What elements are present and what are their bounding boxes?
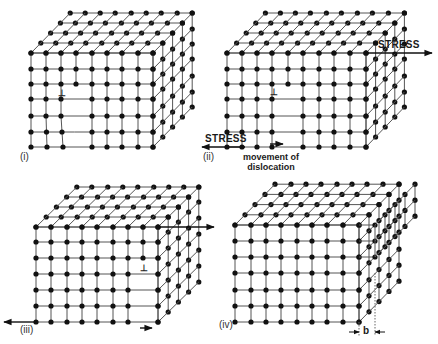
dislocation-symbol-ii: ⊥ <box>270 88 278 97</box>
panel-i-lattice <box>28 10 194 149</box>
panel-iv-lattice <box>232 182 417 336</box>
stress-label-right: STRESS <box>378 40 420 50</box>
burgers-vector-label: b <box>363 326 369 336</box>
movement-caption-line1: movement of <box>243 152 299 162</box>
dislocation-symbol-i: ⊥ <box>58 89 66 98</box>
panel-label-iv: (iv) <box>219 320 233 330</box>
panel-label-iii: (iii) <box>20 325 33 335</box>
panel-label-ii: (ii) <box>203 152 214 162</box>
lattice-drawing <box>0 0 438 344</box>
panel-iii-lattice <box>33 184 201 324</box>
panel-label-i: (i) <box>20 152 29 162</box>
movement-caption-line2: dislocation <box>243 162 299 172</box>
dislocation-diagram: (i) (ii) (iii) (iv) ⊥ ⊥ ⊥ STRESS STRESS … <box>0 0 438 344</box>
stress-arrows <box>4 53 432 328</box>
movement-caption: movement of dislocation <box>243 152 299 172</box>
stress-label-left: STRESS <box>205 134 247 144</box>
panel-ii-lattice <box>224 10 407 149</box>
dislocation-symbol-iii: ⊥ <box>140 264 148 273</box>
